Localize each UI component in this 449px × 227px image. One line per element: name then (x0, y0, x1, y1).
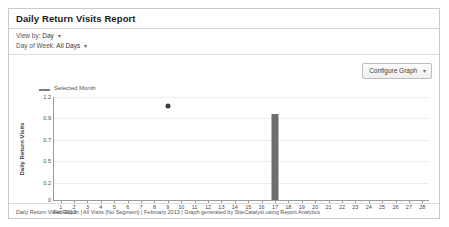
day-of-week-control[interactable]: Day of Week: All Days ▾ (16, 42, 87, 49)
y-axis-title: Daily Return Visits (17, 109, 26, 189)
report-panel: Daily Return Visits Report View by: Day … (8, 8, 440, 219)
x-tick-label: 26 (392, 204, 398, 210)
legend-label-selected-month: Selected Month (54, 85, 96, 91)
x-tick-label: 24 (366, 204, 372, 210)
y-tick-label: 0.2 (43, 180, 51, 186)
y-tick-label: 0.5 (43, 158, 51, 164)
x-tick-label: 23 (352, 204, 358, 210)
day-of-week-label: Day of Week: (16, 42, 55, 49)
x-tick-label: 27 (406, 204, 412, 210)
view-by-value: Day (42, 32, 54, 39)
footer-divider (9, 203, 439, 204)
y-gridline (54, 97, 429, 98)
report-footer: Daily Return Visits Report | All Visits … (16, 209, 320, 215)
x-tick-label: 25 (379, 204, 385, 210)
y-gridline (54, 161, 429, 162)
legend-swatch-selected-month (39, 89, 50, 91)
report-controls: View by: Day ▾ Day of Week: All Days ▾ (9, 29, 439, 54)
view-by-label: View by: (16, 32, 40, 39)
configure-graph-label: Configure Graph (369, 67, 417, 74)
y-gridline (54, 140, 429, 141)
y-gridline (54, 183, 429, 184)
y-tick-label: 0.7 (43, 137, 51, 143)
x-tick-label: 22 (339, 204, 345, 210)
y-tick-label: 0.9 (43, 115, 51, 121)
x-tick-label: 28 (419, 204, 425, 210)
report-title-bar: Daily Return Visits Report (9, 9, 439, 29)
configure-graph-wrap: Configure Graph ▾ (362, 59, 432, 79)
controls-divider (9, 54, 439, 55)
view-by-control[interactable]: View by: Day ▾ (16, 32, 61, 39)
x-tick-label: 21 (325, 204, 331, 210)
page-title: Daily Return Visits Report (16, 13, 136, 24)
chart-plot-area: 1.20.90.70.50.20123456789101112131415161… (53, 97, 429, 201)
chart-data-point[interactable] (165, 103, 170, 108)
day-of-week-value: All Days (56, 42, 80, 49)
y-tick-label: 1.2 (43, 94, 51, 100)
chevron-down-icon: ▾ (84, 43, 87, 49)
y-gridline (54, 118, 429, 119)
chevron-down-icon: ▾ (58, 33, 61, 39)
configure-graph-button[interactable]: Configure Graph ▾ (362, 63, 432, 79)
screenshot-root: Daily Return Visits Report View by: Day … (0, 0, 449, 227)
chart-bar[interactable] (271, 114, 278, 200)
chevron-down-icon: ▾ (423, 67, 426, 76)
